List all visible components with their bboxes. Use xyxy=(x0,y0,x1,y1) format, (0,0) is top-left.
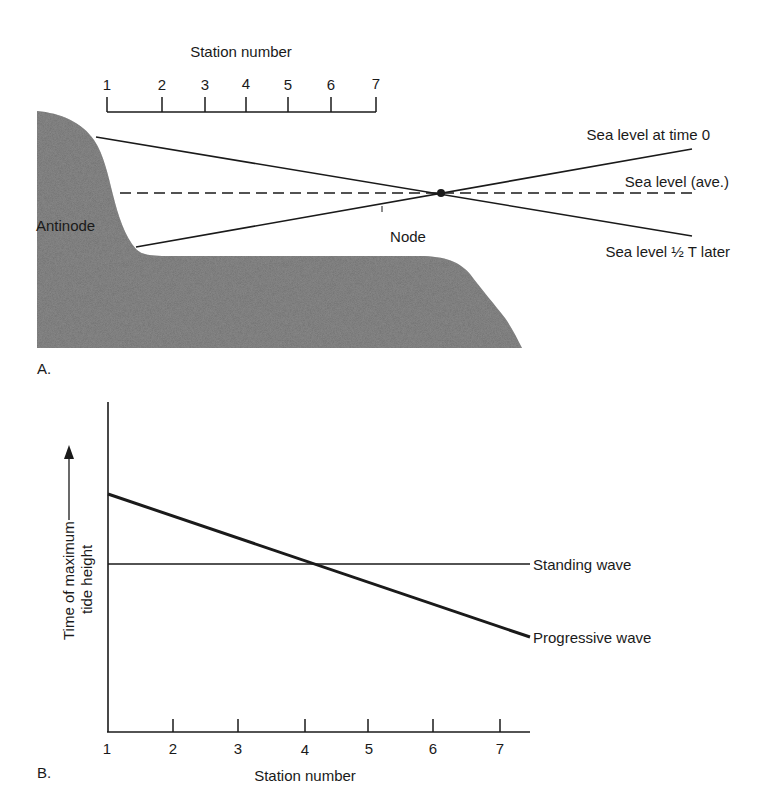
scale-tick-label: 6 xyxy=(327,76,335,93)
y-axis-title-line2: tide height xyxy=(78,544,95,614)
x-tick-label: 2 xyxy=(169,740,177,757)
node-point xyxy=(437,189,445,197)
scale-tick-label: 5 xyxy=(284,76,292,93)
panel-b-label: B. xyxy=(37,764,51,781)
sea-level-half-t-line xyxy=(96,137,692,236)
x-tick-label: 5 xyxy=(365,740,373,757)
terrain-cross-section xyxy=(37,111,522,348)
scale-tick-label: 3 xyxy=(201,76,209,93)
panel-a-label: A. xyxy=(37,360,51,377)
x-axis-title: Station number xyxy=(254,767,356,784)
x-tick-label: 7 xyxy=(496,740,504,757)
station-scale-title: Station number xyxy=(190,43,292,60)
scale-tick-label: 2 xyxy=(158,76,166,93)
x-tick-label: 4 xyxy=(301,741,309,758)
node-label: Node xyxy=(390,228,426,245)
station-scale: Station number 1 2 3 4 5 6 7 xyxy=(103,43,380,112)
x-tick-label: 6 xyxy=(429,740,437,757)
scale-tick-label: 1 xyxy=(103,76,111,93)
standing-wave-label: Standing wave xyxy=(533,556,631,573)
y-axis-title-2: tide height xyxy=(78,544,95,614)
figure-canvas: Station number 1 2 3 4 5 6 7 xyxy=(0,0,764,785)
x-tick-label: 1 xyxy=(103,740,111,757)
progressive-wave-line xyxy=(108,494,530,637)
y-axis-title-line1: Time of maximum xyxy=(60,521,77,640)
x-tick-label: 3 xyxy=(234,740,242,757)
panel-a: Station number 1 2 3 4 5 6 7 xyxy=(36,43,730,377)
antinode-label: Antinode xyxy=(36,217,95,234)
scale-tick-label: 4 xyxy=(242,75,250,92)
sea-level-ave-label: Sea level (ave.) xyxy=(625,173,729,190)
x-axis-ticks xyxy=(173,719,500,732)
sea-level-time0-label: Sea level at time 0 xyxy=(587,126,710,143)
progressive-wave-label: Progressive wave xyxy=(533,629,651,646)
y-axis-title: Time of maximum xyxy=(60,521,77,640)
scale-ticks xyxy=(107,97,376,112)
panel-b: 1 2 3 4 5 6 7 Station number Time of max… xyxy=(37,402,651,784)
scale-tick-label: 7 xyxy=(372,75,380,92)
y-axis-arrow-icon xyxy=(64,445,74,459)
sea-level-half-t-label: Sea level ½ T later xyxy=(605,243,730,260)
